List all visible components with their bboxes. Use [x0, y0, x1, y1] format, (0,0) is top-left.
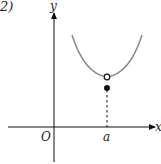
open-circle	[104, 74, 110, 80]
filled-dot	[104, 85, 110, 91]
a-label: a	[103, 130, 110, 144]
part-label: 2)	[0, 0, 13, 14]
origin-label: O	[41, 130, 51, 144]
y-axis-label: y	[49, 0, 57, 13]
x-axis-label: x	[155, 120, 161, 134]
curve	[72, 35, 142, 77]
function-graph: 2) x y O a	[0, 0, 161, 164]
